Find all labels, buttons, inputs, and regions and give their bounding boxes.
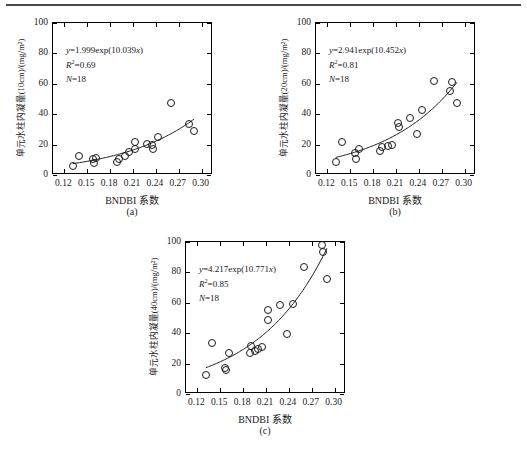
data-point-marker xyxy=(323,275,331,283)
panel-label-c: (c) xyxy=(185,425,345,436)
data-point-marker xyxy=(258,343,266,351)
data-point-marker xyxy=(154,133,162,141)
data-point-marker xyxy=(406,114,414,122)
x-tick-label: 0.15 xyxy=(78,178,95,188)
r-squared-text: R2=0.85 xyxy=(199,277,276,292)
data-point-marker xyxy=(352,155,360,163)
x-tick-label: 0.18 xyxy=(234,397,251,407)
panel-label-a: (a) xyxy=(52,206,212,217)
panel-label-b: (b) xyxy=(315,206,475,217)
x-tick-label: 0.15 xyxy=(341,178,358,188)
x-tick-label: 0.12 xyxy=(55,178,72,188)
scatter-panel-b: 0.120.150.180.210.240.270.30020406080100… xyxy=(269,14,487,220)
x-axis-title: BNDBI 系数 xyxy=(185,411,345,426)
data-point-marker xyxy=(222,366,230,374)
x-tick-label: 0.21 xyxy=(387,178,404,188)
fit-annotation-b: y=2.941exp(10.452x)R2=0.81N=18 xyxy=(329,44,406,87)
data-point-marker xyxy=(190,127,198,135)
x-tick-label: 0.12 xyxy=(188,397,205,407)
data-point-marker xyxy=(338,138,346,146)
data-point-marker xyxy=(167,99,175,107)
x-tick-label: 0.24 xyxy=(147,178,164,188)
x-tick-label: 0.12 xyxy=(318,178,335,188)
data-point-marker xyxy=(388,141,396,149)
data-point-marker xyxy=(75,152,83,160)
data-point-marker xyxy=(202,371,210,379)
data-point-marker xyxy=(225,349,233,357)
x-tick-label: 0.30 xyxy=(192,178,209,188)
x-tick-label: 0.18 xyxy=(101,178,118,188)
y-axis-title: 单元水柱内凝量(10cm)/(mg/m²) xyxy=(14,22,26,174)
y-axis-title: 单元水柱内凝量(20cm)/(mg/m²) xyxy=(277,22,289,174)
scatter-panel-a: 0.120.150.180.210.240.270.30020406080100… xyxy=(6,14,224,220)
x-tick-label: 0.18 xyxy=(364,178,381,188)
scatter-panel-c: 0.120.150.180.210.240.270.30020406080100… xyxy=(139,233,357,439)
x-axis-title: BNDBI 系数 xyxy=(52,192,212,207)
data-point-marker xyxy=(395,123,403,131)
data-point-marker xyxy=(276,301,284,309)
data-point-marker xyxy=(208,339,216,347)
x-tick-label: 0.21 xyxy=(124,178,141,188)
top-divider-rule xyxy=(6,4,521,6)
x-tick-label: 0.30 xyxy=(325,397,342,407)
data-point-marker xyxy=(332,158,340,166)
sample-size-text: N=18 xyxy=(329,73,406,87)
data-point-marker xyxy=(430,77,438,85)
data-point-marker xyxy=(446,87,454,95)
sample-size-text: N=18 xyxy=(199,292,276,306)
x-tick-label: 0.24 xyxy=(410,178,427,188)
x-axis-title: BNDBI 系数 xyxy=(315,192,475,207)
data-point-marker xyxy=(448,78,456,86)
sample-size-text: N=18 xyxy=(66,73,143,87)
data-point-marker xyxy=(92,154,100,162)
fit-annotation-c: y=4.217exp(10.771x)R2=0.85N=18 xyxy=(199,263,276,306)
x-tick-label: 0.15 xyxy=(211,397,228,407)
x-tick-label: 0.27 xyxy=(169,178,186,188)
data-point-marker xyxy=(264,306,272,314)
y-tick xyxy=(53,175,57,176)
data-point-marker xyxy=(300,263,308,271)
data-point-marker xyxy=(413,130,421,138)
data-point-marker xyxy=(319,248,327,256)
y-tick-right xyxy=(340,394,344,395)
data-point-marker xyxy=(453,99,461,107)
y-tick xyxy=(186,394,190,395)
y-tick-right xyxy=(207,175,211,176)
x-tick-label: 0.27 xyxy=(432,178,449,188)
y-axis-title: 单元水柱内凝量(40cm)/(mg/m²) xyxy=(147,241,159,393)
r-squared-text: R2=0.81 xyxy=(329,58,406,73)
fit-annotation-a: y=1.999exp(10.039x)R2=0.69N=18 xyxy=(66,44,143,87)
data-point-marker xyxy=(418,106,426,114)
data-point-marker xyxy=(283,330,291,338)
x-tick-label: 0.21 xyxy=(257,397,274,407)
data-point-marker xyxy=(289,300,297,308)
data-point-marker xyxy=(149,145,157,153)
x-tick-label: 0.24 xyxy=(280,397,297,407)
x-tick-label: 0.27 xyxy=(302,397,319,407)
data-point-marker xyxy=(131,145,139,153)
equation-text: y=4.217exp(10.771x) xyxy=(199,263,276,277)
r-squared-text: R2=0.69 xyxy=(66,58,143,73)
data-point-marker xyxy=(69,162,77,170)
equation-text: y=1.999exp(10.039x) xyxy=(66,44,143,58)
y-tick xyxy=(316,175,320,176)
data-point-marker xyxy=(264,316,272,324)
equation-text: y=2.941exp(10.452x) xyxy=(329,44,406,58)
y-tick-right xyxy=(470,175,474,176)
x-tick-label: 0.30 xyxy=(455,178,472,188)
data-point-marker xyxy=(355,145,363,153)
